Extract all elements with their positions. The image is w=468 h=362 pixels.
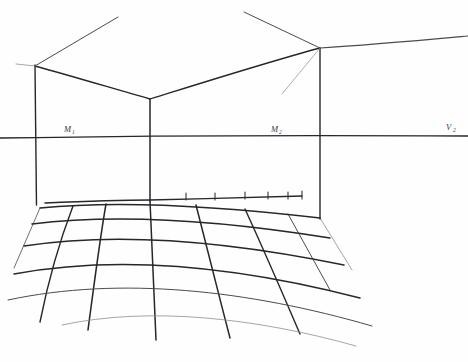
horizon-line [0, 136, 468, 138]
ceiling-right-edge [150, 48, 320, 99]
v2-base: V [446, 122, 453, 132]
horizon-line-group [0, 136, 468, 138]
v2-sub: 2 [453, 127, 456, 133]
ceiling-edges [16, 12, 468, 99]
ceiling-back-receding-ray [244, 12, 320, 48]
floor-grid-receding-lines [14, 201, 352, 340]
measuring-point-2-label: M 2 [270, 124, 282, 135]
m1-base: M [63, 124, 72, 134]
m2-sub: 2 [279, 129, 282, 135]
perspective-diagram: M 1 M 2 V 2 [0, 0, 468, 362]
floor-grid-transversal-lines [8, 204, 372, 346]
point-labels: M 1 M 2 V 2 [63, 122, 456, 135]
measuring-point-1-label: M 1 [63, 124, 75, 135]
ceiling-left-edge [35, 66, 150, 99]
floor-baseline-group [45, 191, 302, 203]
ceiling-corner-stub [282, 48, 320, 94]
ceiling-left-receding-ray [35, 17, 118, 66]
vanishing-point-2-label: V 2 [446, 122, 456, 133]
ceiling-left-stub [16, 64, 35, 66]
drawing-canvas: M 1 M 2 V 2 [0, 0, 468, 362]
left-wall-vertical [35, 65, 37, 205]
m1-sub: 1 [72, 129, 75, 135]
m2-base: M [270, 124, 279, 134]
ceiling-right-receding-ray [320, 36, 468, 48]
